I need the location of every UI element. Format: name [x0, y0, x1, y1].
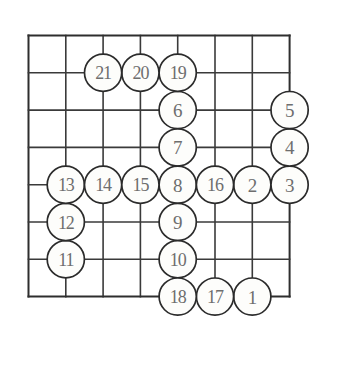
stone-21[interactable]: 21 — [85, 54, 122, 91]
stone-label-6: 6 — [173, 100, 182, 121]
stone-label-21: 21 — [95, 63, 111, 83]
stone-1[interactable]: 1 — [234, 278, 271, 315]
stone-label-2: 2 — [248, 175, 257, 196]
stone-label-15: 15 — [132, 175, 149, 195]
go-board-canvas: 123456789101112131415161718192021 — [0, 0, 346, 370]
stone-label-17: 17 — [207, 287, 224, 307]
stone-label-19: 19 — [170, 63, 187, 83]
stone-label-7: 7 — [173, 137, 182, 158]
stone-17[interactable]: 17 — [196, 278, 233, 315]
stone-18[interactable]: 18 — [159, 278, 196, 315]
stone-3[interactable]: 3 — [271, 166, 308, 203]
stone-label-13: 13 — [58, 175, 75, 195]
stone-label-14: 14 — [95, 175, 112, 195]
stone-14[interactable]: 14 — [85, 166, 122, 203]
stone-5[interactable]: 5 — [271, 92, 308, 129]
stone-15[interactable]: 15 — [122, 166, 159, 203]
stone-4[interactable]: 4 — [271, 129, 308, 166]
stone-label-12: 12 — [58, 213, 74, 233]
stone-layer: 123456789101112131415161718192021 — [47, 54, 308, 315]
stone-label-3: 3 — [285, 175, 294, 196]
stone-label-8: 8 — [173, 175, 182, 196]
stone-label-16: 16 — [207, 175, 224, 195]
stone-11[interactable]: 11 — [47, 241, 84, 278]
stone-label-10: 10 — [170, 250, 187, 270]
stone-6[interactable]: 6 — [159, 92, 196, 129]
stone-20[interactable]: 20 — [122, 54, 159, 91]
stone-label-1: 1 — [248, 287, 257, 308]
stone-label-11: 11 — [58, 250, 73, 270]
stone-16[interactable]: 16 — [196, 166, 233, 203]
stone-label-18: 18 — [170, 287, 187, 307]
stone-label-20: 20 — [132, 63, 149, 83]
stone-19[interactable]: 19 — [159, 54, 196, 91]
stone-label-5: 5 — [285, 100, 294, 121]
go-board-diagram: 123456789101112131415161718192021 — [0, 0, 346, 370]
stone-8[interactable]: 8 — [159, 166, 196, 203]
stone-9[interactable]: 9 — [159, 203, 196, 240]
stone-label-9: 9 — [173, 212, 182, 233]
stone-7[interactable]: 7 — [159, 129, 196, 166]
stone-13[interactable]: 13 — [47, 166, 84, 203]
stone-10[interactable]: 10 — [159, 241, 196, 278]
stone-12[interactable]: 12 — [47, 203, 84, 240]
stone-2[interactable]: 2 — [234, 166, 271, 203]
stone-label-4: 4 — [285, 137, 295, 158]
